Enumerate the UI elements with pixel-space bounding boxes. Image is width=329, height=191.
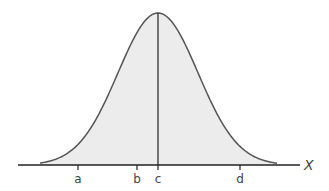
tick-label-a: a (74, 172, 81, 186)
tick-label-b: b (133, 172, 141, 186)
normal-curve-diagram: X abcd (0, 0, 329, 191)
x-axis-label: X (303, 157, 314, 173)
tick-label-d: d (236, 172, 244, 186)
tick-label-c: c (155, 172, 162, 186)
tick-marks: abcd (74, 165, 243, 186)
